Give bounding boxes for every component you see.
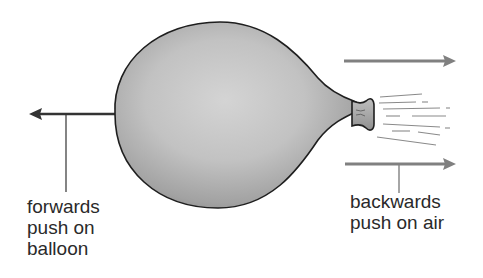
forwards-push-label: forwards push on balloon — [27, 196, 100, 259]
forwards-push-arrow — [29, 108, 115, 120]
backwards-push-arrow-bottom — [345, 158, 456, 170]
backwards-push-label-line-1: backwards — [350, 191, 444, 212]
backwards-push-label-line-2: push on air — [350, 212, 444, 233]
forwards-push-label-line-1: forwards — [27, 196, 100, 217]
air-streaks — [377, 94, 450, 145]
balloon-body — [115, 22, 360, 208]
forwards-push-label-line-2: push on — [27, 217, 100, 238]
backwards-push-label: backwards push on air — [350, 191, 444, 233]
forwards-push-label-line-3: balloon — [27, 238, 100, 259]
backwards-push-arrow-top — [344, 55, 456, 67]
